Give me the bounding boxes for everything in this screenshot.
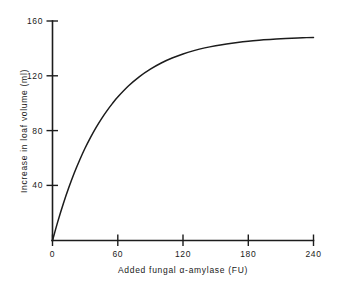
y-tick-label-80: 80 bbox=[32, 126, 43, 136]
chart-figure: 160 120 80 40 0 60 120 180 240 Added fun… bbox=[0, 0, 340, 286]
x-axis-title: Added fungal α-amylase (FU) bbox=[118, 265, 248, 275]
x-tick-label-60: 60 bbox=[112, 249, 123, 259]
y-axis-title: Increase in loaf volume (ml) bbox=[19, 69, 29, 193]
x-tick-label-120: 120 bbox=[175, 249, 191, 259]
y-tick-label-160: 160 bbox=[27, 16, 43, 26]
x-tick-label-240: 240 bbox=[306, 249, 322, 259]
y-tick-label-120: 120 bbox=[27, 71, 43, 81]
chart-background bbox=[0, 0, 340, 286]
plot-area: 160 120 80 40 0 60 120 180 240 Added fun… bbox=[0, 0, 340, 286]
y-tick-label-40: 40 bbox=[32, 180, 43, 190]
x-tick-label-0: 0 bbox=[50, 249, 55, 259]
x-tick-label-180: 180 bbox=[240, 249, 256, 259]
